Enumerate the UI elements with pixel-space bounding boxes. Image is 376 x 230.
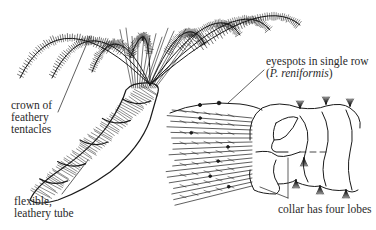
label-flexible-leathery-tube: flexible, leathery tube [14,195,74,219]
leader-eyespots [228,70,264,103]
head-detail [166,97,360,205]
label-crown-of-feathery-tentacles: crown of feathery tentacles [11,99,52,135]
label-collar-has-four-lobes: collar has four lobes [278,203,372,215]
label-eyespots-line-2: (P. reniformis) [266,67,369,79]
setae-tuft [322,97,329,104]
paren-close: ) [329,67,333,79]
label-crown-line-2: feathery [11,111,52,123]
label-eyespots-line-1: eyespots in single row [266,55,369,67]
label-tube-line-1: flexible, [14,195,74,207]
crown-of-tentacles [18,12,302,85]
label-tube-line-2: leathery tube [14,207,74,219]
leader-collar-b [260,187,288,198]
label-crown-line-3: tentacles [11,123,52,135]
label-crown-line-1: crown of [11,99,52,111]
label-eyespots: eyespots in single row (P. reniformis) [266,55,369,79]
species-name: P. reniformis [270,67,329,79]
setae-tuft [300,158,307,166]
tentacle-stems [120,28,198,88]
setae-tuft [346,99,353,106]
